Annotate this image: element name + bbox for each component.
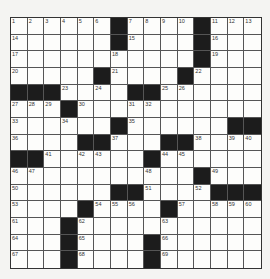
- grid-cell[interactable]: 48: [144, 168, 161, 185]
- grid-cell[interactable]: 1: [11, 18, 28, 35]
- grid-cell[interactable]: 68: [78, 251, 95, 268]
- grid-cell[interactable]: [211, 101, 228, 118]
- grid-cell[interactable]: 47: [28, 168, 45, 185]
- grid-cell[interactable]: 39: [228, 135, 245, 152]
- grid-cell[interactable]: [178, 235, 195, 252]
- grid-cell[interactable]: [28, 68, 45, 85]
- grid-cell[interactable]: [161, 101, 178, 118]
- grid-cell[interactable]: 44: [161, 151, 178, 168]
- grid-cell[interactable]: 12: [228, 18, 245, 35]
- grid-cell[interactable]: [228, 101, 245, 118]
- grid-cell[interactable]: [144, 218, 161, 235]
- grid-cell[interactable]: 64: [11, 235, 28, 252]
- grid-cell[interactable]: [178, 51, 195, 68]
- grid-cell[interactable]: [28, 185, 45, 202]
- grid-cell[interactable]: 62: [78, 218, 95, 235]
- grid-cell[interactable]: 25: [161, 85, 178, 102]
- grid-cell[interactable]: [44, 251, 61, 268]
- grid-cell[interactable]: [244, 168, 261, 185]
- grid-cell[interactable]: [244, 151, 261, 168]
- grid-cell[interactable]: 63: [161, 218, 178, 235]
- grid-cell[interactable]: 9: [161, 18, 178, 35]
- grid-cell[interactable]: [194, 85, 211, 102]
- grid-cell[interactable]: [194, 101, 211, 118]
- grid-cell[interactable]: [144, 135, 161, 152]
- grid-cell[interactable]: [178, 118, 195, 135]
- grid-cell[interactable]: [228, 151, 245, 168]
- grid-cell[interactable]: [28, 135, 45, 152]
- grid-cell[interactable]: [161, 168, 178, 185]
- grid-cell[interactable]: [228, 68, 245, 85]
- grid-cell[interactable]: 28: [28, 101, 45, 118]
- grid-cell[interactable]: [144, 118, 161, 135]
- grid-cell[interactable]: 14: [11, 35, 28, 52]
- grid-cell[interactable]: 49: [211, 168, 228, 185]
- grid-cell[interactable]: [128, 135, 145, 152]
- grid-cell[interactable]: [244, 218, 261, 235]
- grid-cell[interactable]: [144, 201, 161, 218]
- grid-cell[interactable]: [94, 118, 111, 135]
- grid-cell[interactable]: 32: [144, 101, 161, 118]
- grid-cell[interactable]: 50: [11, 185, 28, 202]
- grid-cell[interactable]: 15: [128, 35, 145, 52]
- grid-cell[interactable]: [211, 151, 228, 168]
- grid-cell[interactable]: 45: [178, 151, 195, 168]
- grid-cell[interactable]: 6: [94, 18, 111, 35]
- grid-cell[interactable]: 35: [128, 118, 145, 135]
- grid-cell[interactable]: [161, 185, 178, 202]
- grid-cell[interactable]: [144, 35, 161, 52]
- grid-cell[interactable]: 20: [11, 68, 28, 85]
- grid-cell[interactable]: [111, 151, 128, 168]
- grid-cell[interactable]: 58: [211, 201, 228, 218]
- grid-cell[interactable]: [94, 251, 111, 268]
- grid-cell[interactable]: [228, 51, 245, 68]
- grid-cell[interactable]: [78, 118, 95, 135]
- grid-cell[interactable]: [178, 251, 195, 268]
- grid-cell[interactable]: [128, 168, 145, 185]
- grid-cell[interactable]: [61, 35, 78, 52]
- grid-cell[interactable]: [244, 35, 261, 52]
- grid-cell[interactable]: [128, 151, 145, 168]
- grid-cell[interactable]: [194, 151, 211, 168]
- grid-cell[interactable]: [78, 85, 95, 102]
- grid-cell[interactable]: [161, 68, 178, 85]
- grid-cell[interactable]: [211, 218, 228, 235]
- grid-cell[interactable]: [178, 185, 195, 202]
- grid-cell[interactable]: [61, 135, 78, 152]
- grid-cell[interactable]: 30: [78, 101, 95, 118]
- grid-cell[interactable]: [94, 51, 111, 68]
- grid-cell[interactable]: [211, 118, 228, 135]
- grid-cell[interactable]: [94, 235, 111, 252]
- grid-cell[interactable]: [128, 235, 145, 252]
- grid-cell[interactable]: 4: [61, 18, 78, 35]
- grid-cell[interactable]: [94, 35, 111, 52]
- grid-cell[interactable]: [61, 68, 78, 85]
- grid-cell[interactable]: [28, 235, 45, 252]
- grid-cell[interactable]: [244, 101, 261, 118]
- grid-cell[interactable]: [78, 185, 95, 202]
- grid-cell[interactable]: [111, 218, 128, 235]
- grid-cell[interactable]: [94, 168, 111, 185]
- grid-cell[interactable]: [61, 201, 78, 218]
- grid-cell[interactable]: [28, 218, 45, 235]
- grid-cell[interactable]: 54: [94, 201, 111, 218]
- grid-cell[interactable]: [194, 201, 211, 218]
- grid-cell[interactable]: [161, 51, 178, 68]
- grid-cell[interactable]: [194, 251, 211, 268]
- grid-cell[interactable]: [228, 235, 245, 252]
- grid-cell[interactable]: 16: [211, 35, 228, 52]
- grid-cell[interactable]: [28, 35, 45, 52]
- grid-cell[interactable]: 11: [211, 18, 228, 35]
- grid-cell[interactable]: 33: [11, 118, 28, 135]
- grid-cell[interactable]: [128, 51, 145, 68]
- grid-cell[interactable]: [78, 168, 95, 185]
- grid-cell[interactable]: 42: [78, 151, 95, 168]
- grid-cell[interactable]: [228, 218, 245, 235]
- grid-cell[interactable]: [111, 251, 128, 268]
- grid-cell[interactable]: 21: [111, 68, 128, 85]
- grid-cell[interactable]: [178, 35, 195, 52]
- grid-cell[interactable]: 52: [194, 185, 211, 202]
- grid-cell[interactable]: [44, 68, 61, 85]
- grid-cell[interactable]: 7: [128, 18, 145, 35]
- grid-cell[interactable]: 43: [94, 151, 111, 168]
